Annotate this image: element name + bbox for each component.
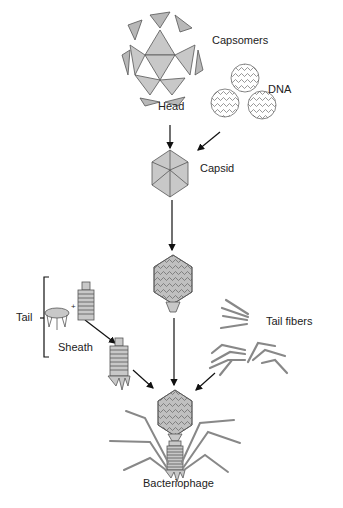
filled-head-icon [154, 255, 192, 312]
label-dna: DNA [268, 83, 291, 95]
bacteriophage-icon [110, 390, 240, 482]
capsid-icon [152, 150, 188, 197]
label-bacteriophage: Bacteriophage [143, 477, 214, 489]
label-head: Head [158, 100, 184, 112]
baseplate-icon [45, 308, 69, 330]
label-capsid: Capsid [200, 162, 234, 174]
dna-icon [211, 64, 276, 119]
label-plus: + [71, 302, 76, 311]
label-capsomers: Capsomers [212, 34, 268, 46]
bacteriophage-diagram [0, 0, 343, 508]
sheath-icon [78, 282, 94, 320]
label-tail: Tail [16, 311, 33, 323]
tail-assembly-icon [108, 338, 130, 390]
capsomers-icon [122, 12, 203, 106]
tail-fibers-icon [210, 300, 287, 375]
label-tail-fibers: Tail fibers [266, 315, 312, 327]
label-sheath: Sheath [58, 341, 93, 353]
